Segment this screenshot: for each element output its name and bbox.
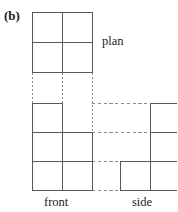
front-view-label: front xyxy=(44,196,68,209)
orthographic-projection-figure xyxy=(0,0,177,212)
dashed-horizontal-lines xyxy=(92,104,177,191)
side-view xyxy=(121,104,178,191)
side-view-label: side xyxy=(132,196,152,209)
part-label: (b) xyxy=(4,9,20,22)
plan-view xyxy=(33,13,93,73)
front-view xyxy=(33,104,93,191)
plan-view-label: plan xyxy=(102,35,124,48)
side-outline xyxy=(121,104,178,191)
